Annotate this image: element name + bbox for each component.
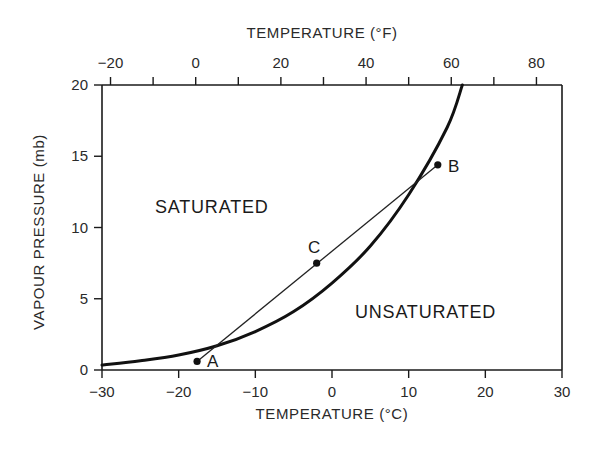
top-axis-title: TEMPERATURE (°F) — [246, 24, 397, 41]
saturation-curve — [102, 85, 462, 365]
x-tick-label: −10 — [243, 383, 268, 400]
y-tick-label: 0 — [80, 361, 88, 378]
y-tick-label: 20 — [71, 76, 88, 93]
x2-tick-label: 20 — [273, 54, 290, 71]
point-b-label: B — [448, 157, 459, 176]
point-a-label: A — [207, 352, 219, 371]
x-tick-label: 0 — [328, 383, 336, 400]
unsaturated-region-label: UNSATURATED — [355, 302, 496, 322]
y-axis-title: VAPOUR PRESSURE (mb) — [30, 134, 47, 330]
x2-tick-label: 80 — [528, 54, 545, 71]
x-tick-label: 10 — [400, 383, 417, 400]
x2-tick-label: −20 — [98, 54, 123, 71]
x2-tick-label: 40 — [358, 54, 375, 71]
top-axis-ticks: −20020406080 — [98, 54, 545, 85]
x2-tick-label: 60 — [443, 54, 460, 71]
vapour-pressure-chart: −20020406080 −30−20−100102030 05101520 T… — [0, 0, 600, 449]
y-tick-label: 15 — [71, 147, 88, 164]
point-b-marker — [434, 161, 441, 168]
x-tick-label: −30 — [89, 383, 114, 400]
point-a-marker — [193, 358, 200, 365]
saturated-region-label: SATURATED — [155, 197, 269, 217]
bottom-axis-ticks: −30−20−100102030 — [89, 370, 570, 400]
y-tick-label: 10 — [71, 219, 88, 236]
x-tick-label: 30 — [554, 383, 571, 400]
bottom-axis-title: TEMPERATURE (°C) — [256, 405, 409, 422]
point-c-label: C — [308, 238, 320, 257]
point-c-marker — [313, 260, 320, 267]
left-axis-ticks: 05101520 — [71, 76, 102, 378]
x-tick-label: 20 — [477, 383, 494, 400]
x-tick-label: −20 — [166, 383, 191, 400]
y-tick-label: 5 — [80, 290, 88, 307]
x2-tick-label: 0 — [192, 54, 200, 71]
